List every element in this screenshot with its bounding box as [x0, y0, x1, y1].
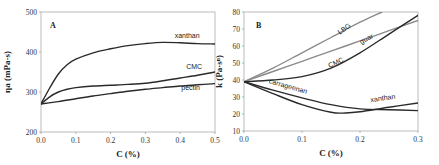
panel-a-plot-frame [41, 12, 215, 132]
panel-a-curve-label-cmc: CMC [186, 63, 202, 70]
panel-b-x-tick-label: 0.2 [355, 135, 365, 144]
panel-b-series-cmc [244, 15, 418, 81]
panel-b-y-tick-label: 60 [233, 42, 241, 51]
panel-a-curve-label-pectin: pectin [181, 84, 200, 92]
panel-a-y-tick-label: 500 [26, 8, 38, 17]
panel-a-x-tick-label: 0.0 [36, 136, 46, 145]
panel-b-y-tick-label: 50 [233, 59, 241, 68]
panel-a-panel-letter: A [50, 21, 56, 30]
panel-a-x-tick-label: 0.1 [71, 136, 81, 145]
panel-b-y-axis-label: k (Pa·sⁿ) [214, 55, 224, 88]
panel-a-x-tick-label: 0.4 [176, 136, 186, 145]
panel-a-x-axis-label: C (%) [116, 149, 140, 159]
panel-b-y-tick-label: 20 [233, 110, 241, 119]
panel-b-series-lbg [244, 12, 382, 82]
chart-figure: 0.00.10.20.30.40.5200300400500C (%)ηa (m… [0, 0, 439, 165]
panel-b-x-tick-label: 0.0 [239, 135, 249, 144]
panel-b-y-tick-label: 10 [233, 127, 241, 136]
panel-b-x-tick-label: 0.1 [297, 135, 307, 144]
panel-a-y-tick-label: 400 [26, 48, 38, 57]
panel-b-y-tick-label: 80 [233, 8, 241, 17]
panel-b-y-tick-label: 40 [233, 76, 241, 85]
panel-b: 0.00.10.20.31020304050607080C (%)k (Pa·s… [214, 8, 423, 159]
panel-a-y-axis-label: ηa (mPa·s) [2, 51, 12, 93]
panel-b-curve-label-carrageenan: carrageenan [268, 77, 308, 96]
panel-b-curve-label-cmc: CMC [327, 56, 344, 69]
panel-b-curve-label-lbg: LBG [336, 22, 351, 36]
panel-b-series-guar [244, 21, 418, 82]
panel-a-x-tick-label: 0.2 [106, 136, 116, 145]
panel-b-y-tick-label: 30 [233, 93, 241, 102]
panel-a-x-tick-label: 0.3 [141, 136, 151, 145]
panel-a-y-tick-label: 300 [26, 88, 38, 97]
panel-a: 0.00.10.20.30.40.5200300400500C (%)ηa (m… [2, 8, 220, 160]
panel-a-x-tick-label: 0.5 [210, 136, 220, 145]
panel-b-curve-label-xanthan: xanthan [370, 93, 396, 103]
panel-a-curve-label-xanthan: xanthan [175, 32, 200, 39]
panel-b-x-axis-label: C (%) [319, 148, 343, 158]
panel-b-panel-letter: B [256, 21, 262, 30]
panel-b-y-tick-label: 70 [233, 25, 241, 34]
panel-a-y-tick-label: 200 [26, 128, 38, 137]
panel-b-x-tick-label: 0.3 [413, 135, 423, 144]
panel-a-series-xanthan [41, 42, 215, 104]
panel-b-curve-label-guar: guar [359, 32, 376, 46]
